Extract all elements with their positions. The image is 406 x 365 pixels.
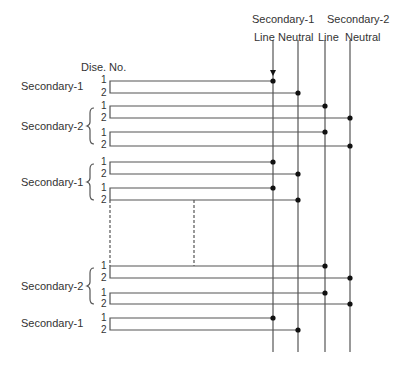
disc-number: 2 [101, 194, 107, 205]
group-label: Secondary-1 [21, 80, 83, 92]
group-label: Secondary-1 [21, 317, 83, 329]
brace-icon [87, 268, 94, 304]
disc-number: 1 [101, 312, 107, 323]
disc-number: 1 [101, 156, 107, 167]
disc-number-header: Dise. No. [81, 61, 126, 73]
disc-number: 1 [101, 287, 107, 298]
disc-number: 2 [101, 168, 107, 179]
header-line-1: Line [254, 31, 275, 43]
disc-number: 1 [101, 260, 107, 271]
disc-number: 2 [101, 272, 107, 283]
disc-number: 2 [101, 139, 107, 150]
brace-icon [87, 108, 94, 144]
disc-number: 2 [101, 324, 107, 335]
group-label: Secondary-1 [21, 176, 83, 188]
disc-number: 1 [101, 100, 107, 111]
disc-number: 2 [101, 298, 107, 309]
header-neutral-1: Neutral [278, 31, 313, 43]
disc-number: 1 [101, 127, 107, 138]
disc-number: 2 [101, 112, 107, 123]
arrow-icon [270, 70, 276, 76]
disc-number: 1 [101, 182, 107, 193]
disc-number: 1 [101, 74, 107, 85]
header-secondary-1: Secondary-1 [252, 13, 314, 25]
group-label: Secondary-2 [21, 120, 83, 132]
header-line-2: Line [318, 31, 339, 43]
header-secondary-2: Secondary-2 [327, 13, 389, 25]
group-label: Secondary-2 [21, 280, 83, 292]
header-neutral-2: Neutral [345, 31, 380, 43]
brace-icon [87, 164, 94, 200]
disc-number: 2 [101, 87, 107, 98]
